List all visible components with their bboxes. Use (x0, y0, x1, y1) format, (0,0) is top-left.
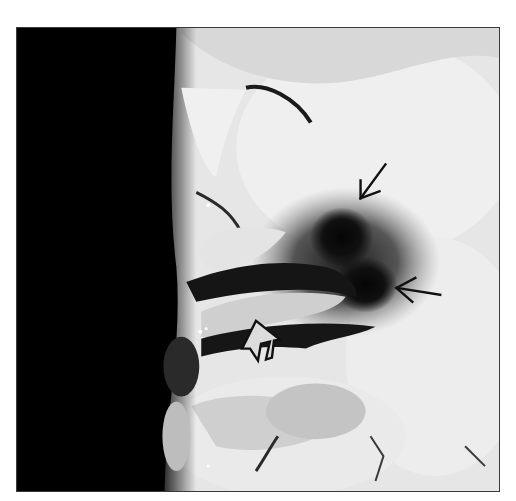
pathology-photo (16, 27, 500, 492)
void-region (17, 28, 178, 491)
brain-section-image (17, 28, 499, 491)
